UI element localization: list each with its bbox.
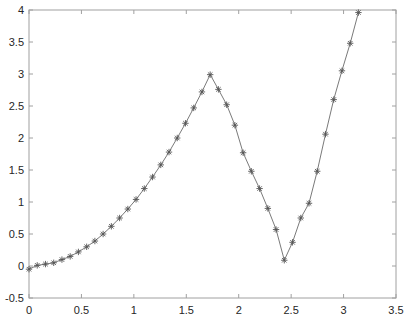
y-tick-label: 0.5 — [9, 228, 24, 240]
asterisk-marker-icon — [67, 253, 73, 259]
asterisk-marker-icon — [331, 96, 337, 102]
x-tick-label: 3 — [341, 304, 347, 316]
y-tick-label: 1 — [18, 196, 24, 208]
asterisk-marker-icon — [108, 223, 114, 229]
asterisk-marker-icon — [42, 261, 48, 267]
line-chart: 00.511.522.533.5 -0.500.511.522.533.54 — [0, 0, 407, 322]
asterisk-marker-icon — [92, 238, 98, 244]
asterisk-marker-icon — [149, 174, 155, 180]
asterisk-marker-icon — [256, 185, 262, 191]
asterisk-marker-icon — [59, 256, 65, 262]
asterisk-marker-icon — [248, 168, 254, 174]
y-tick-label: 2.5 — [9, 100, 24, 112]
asterisk-marker-icon — [174, 135, 180, 141]
x-tick-label: 2.5 — [283, 304, 298, 316]
asterisk-marker-icon — [141, 185, 147, 191]
asterisk-marker-icon — [215, 86, 221, 92]
asterisk-marker-icon — [100, 231, 106, 237]
y-tick-label: 3.5 — [9, 36, 24, 48]
x-tick-label: 1 — [131, 304, 137, 316]
asterisk-marker-icon — [191, 105, 197, 111]
asterisk-marker-icon — [289, 239, 295, 245]
y-tick-label: 3 — [18, 68, 24, 80]
asterisk-marker-icon — [355, 9, 361, 15]
y-tick-label: 2 — [18, 132, 24, 144]
asterisk-marker-icon — [83, 244, 89, 250]
asterisk-marker-icon — [133, 196, 139, 202]
chart-background — [0, 0, 407, 322]
y-tick-label: -0.5 — [5, 292, 24, 304]
asterisk-marker-icon — [314, 168, 320, 174]
asterisk-marker-icon — [322, 131, 328, 137]
x-tick-label: 0 — [26, 304, 32, 316]
asterisk-marker-icon — [26, 266, 32, 272]
asterisk-marker-icon — [223, 102, 229, 108]
asterisk-marker-icon — [281, 257, 287, 263]
asterisk-marker-icon — [34, 262, 40, 268]
asterisk-marker-icon — [51, 260, 57, 266]
asterisk-marker-icon — [240, 150, 246, 156]
x-tick-label: 3.5 — [388, 304, 403, 316]
asterisk-marker-icon — [75, 249, 81, 255]
asterisk-marker-icon — [232, 122, 238, 128]
asterisk-marker-icon — [158, 162, 164, 168]
asterisk-marker-icon — [182, 120, 188, 126]
y-tick-label: 0 — [18, 260, 24, 272]
y-tick-label: 1.5 — [9, 164, 24, 176]
asterisk-marker-icon — [265, 205, 271, 211]
y-tick-label: 4 — [18, 4, 24, 16]
asterisk-marker-icon — [166, 149, 172, 155]
x-tick-label: 2 — [236, 304, 242, 316]
asterisk-marker-icon — [273, 226, 279, 232]
asterisk-marker-icon — [298, 215, 304, 221]
asterisk-marker-icon — [199, 89, 205, 95]
asterisk-marker-icon — [116, 215, 122, 221]
asterisk-marker-icon — [347, 40, 353, 46]
asterisk-marker-icon — [339, 68, 345, 74]
asterisk-marker-icon — [125, 206, 131, 212]
x-tick-label: 0.5 — [74, 304, 89, 316]
x-tick-label: 1.5 — [179, 304, 194, 316]
asterisk-marker-icon — [207, 71, 213, 77]
asterisk-marker-icon — [306, 200, 312, 206]
